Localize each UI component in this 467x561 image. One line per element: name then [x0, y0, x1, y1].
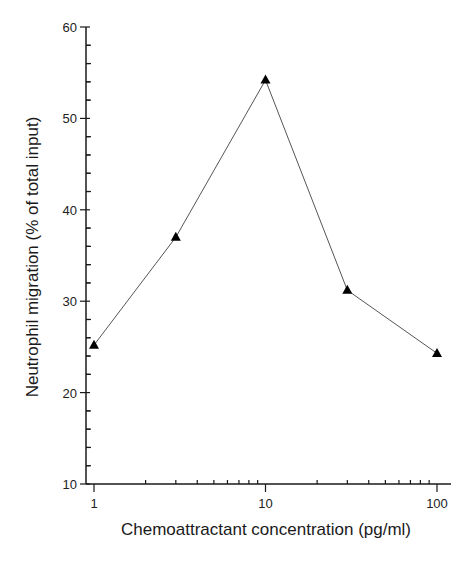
- y-axis-title: Neutrophil migration (% of total input): [23, 117, 42, 398]
- y-tick-label: 10: [63, 477, 77, 492]
- triangle-marker: [171, 232, 181, 241]
- y-tick-label: 50: [63, 111, 77, 126]
- y-tick-label: 30: [63, 294, 77, 309]
- triangle-marker: [261, 75, 271, 84]
- x-axis-title: Chemoattractant concentration (pg/ml): [121, 520, 411, 539]
- triangle-marker: [432, 348, 442, 357]
- y-tick-label: 20: [63, 386, 77, 401]
- y-axis: 102030405060: [63, 20, 91, 492]
- series-line: [94, 80, 437, 353]
- data-series: [89, 75, 442, 357]
- x-tick-label: 1: [90, 496, 97, 511]
- x-tick-label: 100: [426, 496, 448, 511]
- x-axis: 110100: [86, 480, 451, 511]
- y-tick-label: 60: [63, 20, 77, 35]
- y-tick-label: 40: [63, 203, 77, 218]
- triangle-marker: [342, 285, 352, 294]
- chart: 102030405060 110100 Chemoattractant conc…: [0, 0, 467, 561]
- x-tick-label: 10: [258, 496, 272, 511]
